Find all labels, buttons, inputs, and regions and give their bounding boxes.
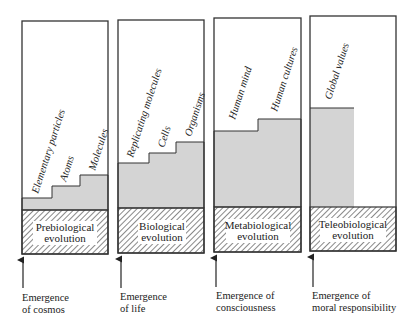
level-label-molecules: Molecules — [86, 127, 110, 172]
level-staircase — [214, 119, 301, 207]
level-label-human-cultures: Human cultures — [268, 46, 299, 114]
emergence-label-line1: Emergence of — [312, 290, 371, 301]
emergence-label-line1: Emergence — [22, 292, 69, 303]
emergence-label-line2: moral responsibility — [312, 302, 397, 313]
level-label-atoms: Atoms — [57, 154, 76, 183]
level-staircase — [310, 108, 354, 207]
emergence-label-line2: consciousness — [216, 302, 276, 313]
level-label-global-values: Global values — [322, 41, 351, 100]
emergence-label-line1: Emergence of — [216, 290, 275, 301]
stage-label-line2: evolution — [141, 231, 183, 243]
panel-biological: Biological evolution Replicating molecul… — [118, 20, 207, 314]
emergence-label-line1: Emergence — [120, 291, 167, 302]
stage-label-line2: evolution — [332, 229, 374, 241]
panel-metabiological: Metabiological evolution Human mind Huma… — [214, 18, 301, 313]
stage-label-line2: evolution — [237, 230, 279, 242]
panel-prebiological: Prebiological evolution Elementary parti… — [22, 21, 110, 315]
panel-teleobiological: Teleobiological evolution Global values … — [310, 16, 397, 313]
level-label-human-mind: Human mind — [226, 65, 254, 122]
level-label-elementary-particles: Elementary particles — [29, 108, 67, 196]
level-label-cells: Cells — [155, 125, 172, 149]
level-label-organisms: Organisms — [182, 91, 207, 138]
evolution-diagram: Prebiological evolution Elementary parti… — [0, 0, 417, 335]
emergence-label-line2: of life — [120, 303, 146, 314]
emergence-label-line2: of cosmos — [22, 304, 65, 315]
stage-label-line2: evolution — [44, 232, 86, 244]
